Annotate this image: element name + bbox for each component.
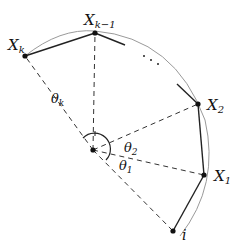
label-x1: X1 <box>213 167 231 186</box>
vertex-xk-1 <box>92 30 97 35</box>
label-theta-2: θ2 <box>124 140 138 157</box>
label-theta-k: θk <box>51 91 64 108</box>
label-xk: Xk <box>7 36 25 55</box>
polygon-arc-diagram: Xk Xk−1 X2 X1 i θk θ2 θ1 <box>0 0 246 250</box>
vertex-i <box>170 228 175 233</box>
vertices <box>22 30 206 233</box>
label-theta-1: θ1 <box>119 158 133 175</box>
center-point <box>90 147 95 152</box>
angle-arc <box>83 133 110 160</box>
label-xk-1: Xk−1 <box>83 11 116 30</box>
label-i: i <box>182 227 186 243</box>
circle-arc <box>25 31 209 236</box>
dashed-radii <box>25 33 204 231</box>
diagram-canvas: Xk Xk−1 X2 X1 i θk θ2 θ1 <box>0 0 246 250</box>
ellipsis-dots <box>143 55 159 65</box>
label-x2: X2 <box>206 96 224 115</box>
vertex-x2 <box>195 101 200 106</box>
polygon-chords <box>25 33 204 231</box>
vertex-x1 <box>201 172 206 177</box>
